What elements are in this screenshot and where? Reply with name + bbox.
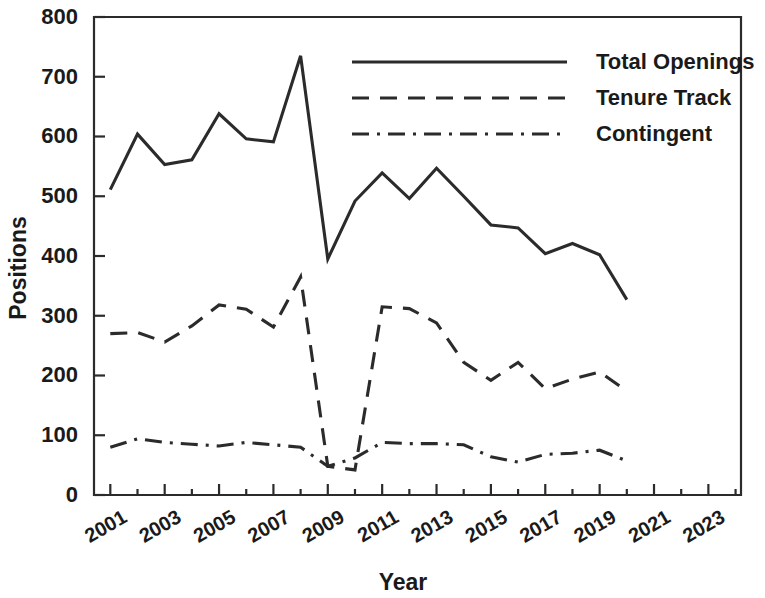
x-axis-tick-label: 2017 <box>516 505 566 546</box>
y-axis-tick-label: 200 <box>41 362 78 387</box>
chart-svg: 0100200300400500600700800 20012003200520… <box>0 0 765 598</box>
x-axis-tick-marks <box>110 484 735 495</box>
series-line-contingent <box>110 439 627 466</box>
series-line-total-openings <box>110 56 627 300</box>
x-axis-tick-label: 2001 <box>81 505 131 546</box>
chart-figure: 0100200300400500600700800 20012003200520… <box>0 0 765 598</box>
x-axis-tick-label: 2005 <box>190 505 240 546</box>
x-axis-tick-label: 2009 <box>298 505 348 546</box>
x-axis-tick-label: 2011 <box>354 505 403 546</box>
y-axis-title: Positions <box>5 216 31 320</box>
x-axis-tick-label: 2007 <box>244 505 294 546</box>
series-line-tenure-track <box>110 277 627 470</box>
y-axis-tick-label: 0 <box>66 482 78 507</box>
legend-label-tenure-track: Tenure Track <box>596 85 732 110</box>
chart-legend: Total OpeningsTenure TrackContingent <box>352 49 754 146</box>
y-axis-tick-label: 100 <box>41 422 78 447</box>
data-series-group <box>110 56 627 470</box>
x-axis-tick-label: 2015 <box>461 505 511 546</box>
x-axis-tick-labels: 2001200320052007200920112013201520172019… <box>81 505 729 546</box>
x-axis-tick-label: 2023 <box>679 505 729 546</box>
x-axis-tick-label: 2021 <box>624 505 674 546</box>
legend-label-total-openings: Total Openings <box>596 49 754 74</box>
y-axis-tick-label: 400 <box>41 243 78 268</box>
y-axis-tick-labels: 0100200300400500600700800 <box>41 4 78 507</box>
x-axis-tick-label: 2013 <box>407 505 457 546</box>
y-axis-tick-marks <box>94 17 105 495</box>
y-axis-tick-label: 600 <box>41 123 78 148</box>
x-axis-title: Year <box>379 569 428 595</box>
y-axis-tick-label: 700 <box>41 64 78 89</box>
legend-label-contingent: Contingent <box>596 121 713 146</box>
y-axis-tick-label: 300 <box>41 303 78 328</box>
y-axis-tick-label: 800 <box>41 4 78 29</box>
x-axis-tick-label: 2003 <box>135 505 185 546</box>
y-axis-tick-label: 500 <box>41 183 78 208</box>
x-axis-tick-label: 2019 <box>570 505 620 546</box>
